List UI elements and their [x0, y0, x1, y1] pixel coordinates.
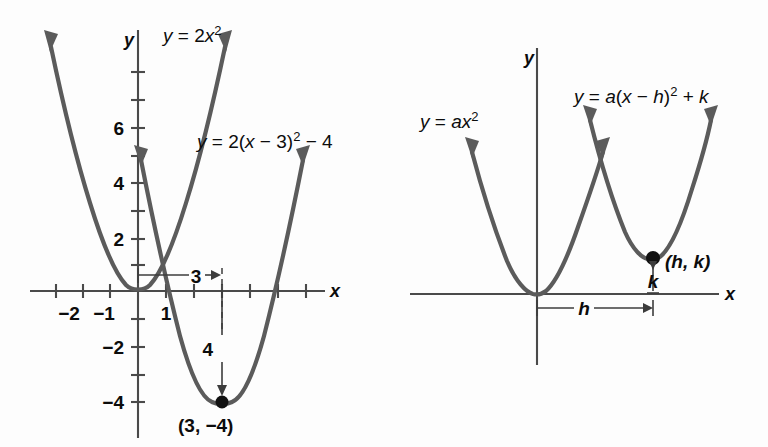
k-arrowhead-down: [649, 261, 657, 270]
y-tick-label-4: 4: [113, 173, 124, 194]
y-tick-label-6: 6: [113, 118, 124, 139]
shift-h-arrowhead: [211, 270, 221, 280]
shift-k-arrowhead: [217, 385, 227, 396]
x-tick-label--1: −1: [93, 303, 115, 324]
right-panel-general-form: x y y = ax2 y = a(x − h)2 + k (h, k) k h: [384, 0, 768, 447]
equation-label-shifted-general: y = a(x − h)2 + k: [572, 84, 710, 107]
curve-arrowhead-left-up: [44, 30, 58, 52]
y-tick-label--4: −4: [102, 392, 124, 413]
k-annotation-label: k: [648, 271, 660, 292]
vertex-label-general: (h, k): [665, 251, 710, 272]
parabola-transformation-figure: x y −2 −1 1 6 4 2 −2 −4 y = 2x2 y = 2(x …: [0, 0, 768, 447]
shift-h-label: 3: [191, 266, 202, 287]
h-arrowhead: [643, 303, 653, 313]
x-tick-label-1: 1: [161, 303, 172, 324]
shift-k-label: 4: [202, 339, 213, 360]
equation-label-parent-general: y = ax2: [418, 109, 478, 132]
y-axis-label-general: y: [523, 48, 535, 68]
left-panel-concrete-example: x y −2 −1 1 6 4 2 −2 −4 y = 2x2 y = 2(x …: [0, 0, 384, 447]
x-axis-label: x: [329, 281, 341, 301]
x-tick-label--2: −2: [58, 303, 80, 324]
h-annotation-label: h: [578, 298, 590, 319]
equation-label-shifted: y = 2(x − 3)2 − 4: [195, 129, 333, 152]
general-shifted-arrowhead-left: [583, 105, 597, 126]
y-tick-label--2: −2: [102, 337, 124, 358]
x-axis-label-general: x: [724, 284, 736, 304]
y-axis-label: y: [123, 30, 135, 50]
y-tick-label-2: 2: [113, 229, 124, 250]
vertex-coordinate-label: (3, −4): [178, 415, 233, 436]
general-shifted-arrowhead-right: [704, 105, 718, 126]
vertex-dot: [216, 396, 229, 409]
equation-label-parent: y = 2x2: [161, 23, 221, 46]
general-parent-arrowhead-left: [465, 137, 479, 158]
